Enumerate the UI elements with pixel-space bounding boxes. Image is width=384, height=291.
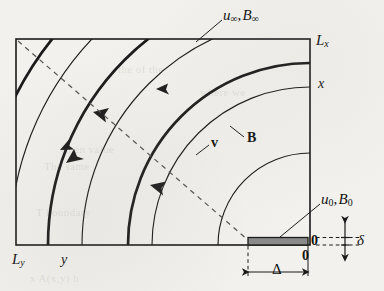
b-arc-4 bbox=[10, 0, 310, 245]
label-origin-right: 0 bbox=[311, 234, 318, 248]
label-inlet-b-sub: 0 bbox=[348, 197, 353, 208]
v-arc-3 bbox=[0, 0, 310, 245]
b-arc-1 bbox=[218, 153, 310, 245]
domain-frame bbox=[16, 39, 310, 245]
b-arrow-1 bbox=[156, 84, 169, 95]
label-lx: Lx bbox=[316, 33, 329, 49]
b-arc-3 bbox=[82, 17, 310, 245]
delta-thickness-dimension bbox=[316, 222, 360, 260]
label-inflow-b: B bbox=[243, 7, 252, 23]
label-axis-y: y bbox=[61, 253, 67, 267]
v-arc-1 bbox=[128, 63, 310, 245]
v-arrow-3 bbox=[150, 182, 166, 196]
label-field-b: B bbox=[247, 131, 256, 145]
v-arrowheads bbox=[66, 108, 166, 196]
label-inflow: u∞, B∞ bbox=[223, 8, 259, 24]
label-lx-sub: x bbox=[324, 38, 328, 49]
leader-v-label bbox=[196, 145, 209, 155]
b-arc-2 bbox=[152, 87, 310, 245]
leader-b-label bbox=[230, 126, 244, 137]
magnetic-field-lines bbox=[10, 0, 310, 245]
label-inlet-sep: , bbox=[333, 191, 337, 207]
label-inflow-u: u bbox=[223, 7, 231, 23]
v-arrow-2 bbox=[66, 149, 84, 163]
leader-lines bbox=[196, 20, 320, 237]
label-inflow-sep: , bbox=[238, 7, 242, 23]
inlet-slab bbox=[248, 238, 308, 246]
velocity-streamlines bbox=[0, 0, 310, 245]
label-ly: Ly bbox=[12, 252, 25, 268]
label-inlet-u: u bbox=[321, 191, 329, 207]
label-inflow-b-sub: ∞ bbox=[252, 13, 259, 24]
label-ly-sub: y bbox=[20, 257, 24, 268]
v-arrow-1 bbox=[93, 108, 109, 123]
label-inflow-u-sub: ∞ bbox=[231, 13, 238, 24]
b-arrowheads bbox=[60, 84, 169, 150]
v-arc-2 bbox=[48, 0, 310, 245]
label-velocity-v: v bbox=[211, 136, 218, 150]
label-width-delta: Δ bbox=[272, 262, 282, 277]
label-axis-x: x bbox=[318, 77, 324, 91]
label-inlet: u0, B0 bbox=[321, 192, 353, 208]
label-origin-bottom: 0 bbox=[302, 249, 309, 263]
label-delta-thickness: δ bbox=[357, 233, 364, 248]
label-inlet-b: B bbox=[338, 191, 347, 207]
